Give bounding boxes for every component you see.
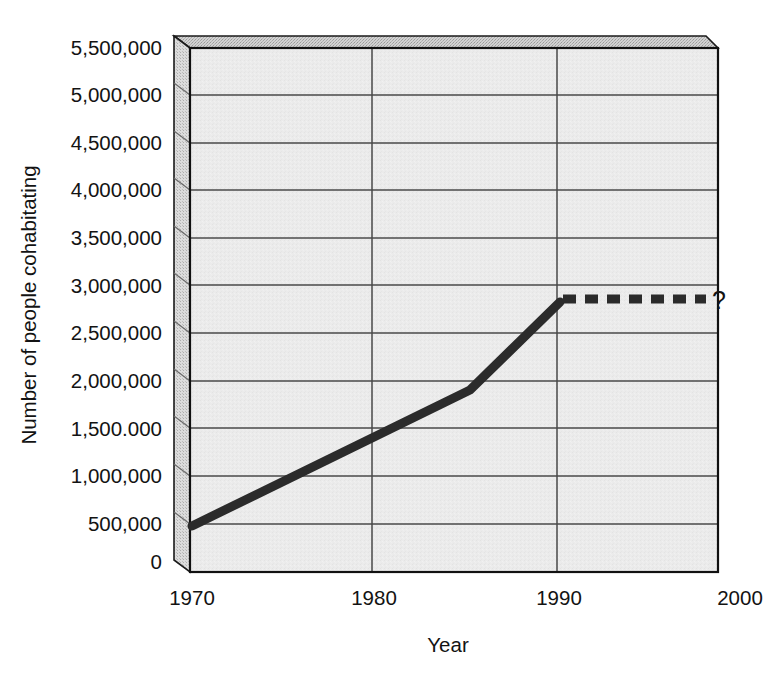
y-tick-label: 0 (151, 550, 162, 573)
y-tick-label: 4,500,000 (71, 131, 162, 154)
y-tick-label: 1,500.000 (71, 417, 162, 440)
projection-question-mark: ? (712, 286, 726, 314)
chart-container: ? 0 500,000 1,000,000 1,500.000 2,000,00… (0, 0, 782, 675)
y-tick-label: 3,500,000 (71, 226, 162, 249)
y-tick-label: 3,000,000 (71, 274, 162, 297)
x-tick-label: 1990 (536, 586, 582, 609)
plot-box-top-face (174, 36, 718, 48)
x-tick-label: 1970 (169, 586, 215, 609)
x-tick-label: 1980 (351, 586, 397, 609)
y-tick-label: 500,000 (88, 512, 162, 535)
x-tick-label: 2000 (717, 586, 763, 609)
y-tick-label: 5,500,000 (71, 36, 162, 59)
y-tick-label: 1,000,000 (71, 464, 162, 487)
line-chart: ? 0 500,000 1,000,000 1,500.000 2,000,00… (0, 0, 782, 675)
y-tick-label: 4,000,000 (71, 178, 162, 201)
y-axis-title: Number of people cohabitating (17, 165, 40, 444)
x-axis-tick-labels: 1970 1980 1990 2000 (169, 586, 763, 609)
y-tick-label: 5,000,000 (71, 83, 162, 106)
y-tick-label: 2,000,000 (71, 369, 162, 392)
y-axis-tick-labels: 0 500,000 1,000,000 1,500.000 2,000,000 … (71, 36, 162, 573)
plot-box-left-face (174, 36, 190, 572)
x-axis-title: Year (427, 633, 469, 656)
y-tick-label: 2,500,000 (71, 321, 162, 344)
plot-area (190, 48, 718, 572)
